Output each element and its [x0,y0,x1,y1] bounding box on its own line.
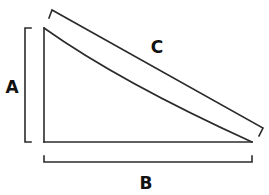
label-b: B [140,173,153,193]
label-c: C [151,37,163,57]
bracket-a-line [25,28,31,142]
triangle-diagram: A C B [0,0,269,195]
label-a: A [5,77,19,97]
triangle-hypotenuse-c [44,28,252,142]
bracket-b-line [44,156,252,162]
right-triangle [44,28,252,142]
bracket-a [25,28,31,142]
bracket-c [49,10,263,136]
bracket-c-line [49,10,263,136]
bracket-b [44,156,252,162]
